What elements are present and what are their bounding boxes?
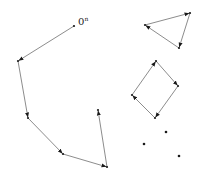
directed-edge [28, 118, 62, 153]
vertex [144, 24, 146, 26]
vertex [189, 12, 191, 14]
vertex [177, 85, 179, 87]
vertex [73, 25, 75, 27]
vertex [178, 47, 180, 49]
label-superscript: n [84, 15, 88, 22]
components-layer [17, 12, 191, 168]
directed-edge [132, 62, 155, 95]
directed-edge [133, 96, 155, 118]
isolated-points [143, 131, 181, 158]
vertex [154, 117, 156, 119]
vertex [97, 109, 99, 111]
vertex [62, 153, 64, 155]
open-path [17, 25, 108, 168]
quadrilateral [131, 60, 179, 119]
vertex [106, 166, 108, 168]
triangle [144, 12, 191, 49]
vertex [155, 60, 157, 62]
isolated-point [165, 131, 168, 134]
directed-edge [63, 154, 106, 167]
directed-edge [145, 13, 189, 25]
vertex [131, 94, 133, 96]
functional-graph-diagram: 0n [0, 0, 203, 182]
directed-edge [179, 13, 190, 47]
isolated-point [143, 143, 146, 146]
directed-edge [19, 26, 74, 60]
isolated-point [178, 155, 181, 158]
directed-edge [18, 61, 28, 117]
directed-edge [156, 86, 178, 117]
zero-n-label: 0n [78, 15, 88, 27]
directed-edge [146, 26, 179, 48]
vertex [17, 60, 19, 62]
directed-edge [98, 111, 107, 167]
vertex [27, 117, 29, 119]
directed-edge [156, 61, 177, 85]
